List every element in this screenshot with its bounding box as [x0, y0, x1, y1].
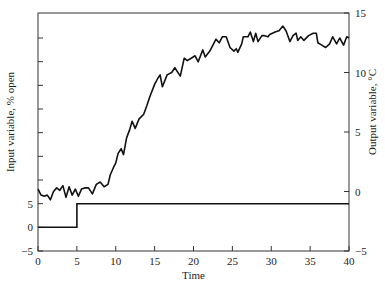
x-axis-title: Time	[182, 269, 205, 281]
right-axis: −5051015	[344, 7, 367, 257]
x-tick-label: 0	[35, 255, 41, 267]
line-chart: −505 −5051015 0510152025303540 Time Inpu…	[0, 0, 385, 286]
right-tick-label: 10	[355, 67, 367, 79]
right-tick-label: 5	[355, 126, 361, 138]
chart-container: −505 −5051015 0510152025303540 Time Inpu…	[0, 0, 385, 286]
left-axis-title: Input variable, % open	[4, 71, 16, 172]
x-tick-label: 30	[266, 255, 278, 267]
x-tick-label: 15	[149, 255, 161, 267]
plot-frame	[38, 13, 349, 251]
x-tick-label: 5	[74, 255, 80, 267]
output-series-line	[38, 26, 349, 200]
right-tick-label: 0	[355, 186, 361, 198]
x-tick-label: 25	[227, 255, 239, 267]
x-tick-label: 20	[188, 255, 200, 267]
left-tick-label: 0	[28, 221, 34, 233]
left-tick-label: 5	[28, 198, 34, 210]
left-axis: −505	[21, 38, 43, 257]
input-series-line	[38, 204, 349, 228]
right-axis-title: Output variable, °C	[366, 69, 378, 155]
left-tick-label: −5	[21, 245, 33, 257]
right-tick-label: 15	[355, 7, 367, 19]
x-axis: 0510152025303540	[35, 246, 355, 267]
x-tick-label: 35	[305, 255, 317, 267]
right-tick-label: −5	[355, 245, 367, 257]
x-tick-label: 40	[344, 255, 356, 267]
x-tick-label: 10	[110, 255, 122, 267]
